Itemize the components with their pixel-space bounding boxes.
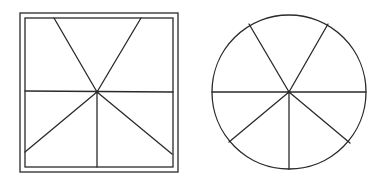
circle-spoke-bottom-right (289, 92, 350, 143)
circle-center-dot (287, 90, 290, 93)
circle-figure (212, 15, 366, 169)
square-spoke-bottom-right (97, 92, 172, 154)
square-figure (20, 13, 178, 172)
figure-canvas (0, 0, 384, 182)
square-spoke-left (25, 91, 173, 92)
circle-spoke-top-right (289, 24, 328, 92)
square-spoke-bottom-left (25, 92, 97, 152)
circle-spoke-bottom-left (229, 92, 289, 142)
square-center-dot (95, 90, 98, 93)
square-spoke-top-right (97, 18, 141, 92)
circle-spoke-top-left (249, 24, 289, 92)
square-spoke-top-left (54, 18, 97, 92)
